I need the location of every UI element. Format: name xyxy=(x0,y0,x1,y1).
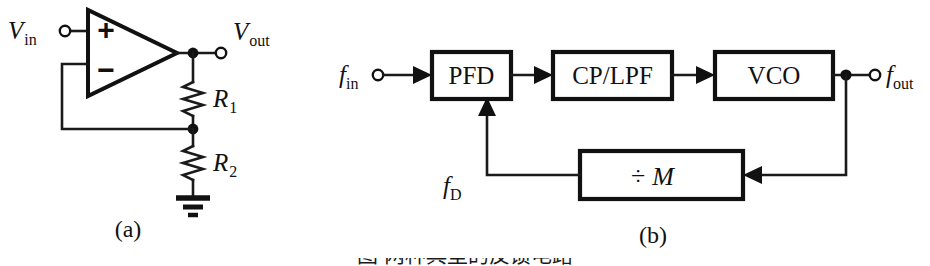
block-divider-label: ÷M xyxy=(631,162,675,191)
fout-terminal-icon xyxy=(870,70,880,80)
panel-b-group: PFD CP/LPF VCO ÷M xyxy=(339,52,914,248)
figure-container: + − xyxy=(0,0,930,266)
label-fin: fin xyxy=(339,61,358,92)
ground-symbol xyxy=(176,198,210,215)
arrowhead-cplpf-vco xyxy=(696,66,715,84)
panel-a-group: + − xyxy=(8,10,270,242)
arrowhead-vco-divider xyxy=(743,166,762,184)
input-terminal-icon xyxy=(60,26,70,36)
arrowhead-pfd-cplpf xyxy=(534,66,553,84)
label-vout: Vout xyxy=(233,18,270,49)
figure-caption-clipped: 图 两种典型的反馈电路 xyxy=(0,258,930,266)
panel-label-b: (b) xyxy=(639,222,667,248)
resistor-r1-symbol xyxy=(183,82,203,116)
arrowhead-fin-pfd xyxy=(413,66,432,84)
op-amp-minus-label: − xyxy=(97,53,115,86)
label-vin: Vin xyxy=(8,17,37,48)
resistor-r2-symbol xyxy=(183,146,203,180)
output-terminal-icon xyxy=(216,48,226,58)
circuit-diagram-svg: + − xyxy=(0,0,930,266)
op-amp-plus-label: + xyxy=(97,13,115,46)
label-r1: R1 xyxy=(212,85,237,116)
label-fd: fD xyxy=(443,172,462,203)
block-cp-lpf-label: CP/LPF xyxy=(572,62,653,89)
label-fout: fout xyxy=(886,61,914,92)
block-vco-label: VCO xyxy=(748,62,801,89)
label-r2: R2 xyxy=(212,149,237,180)
figure-caption-text: 图 两种典型的反馈电路 xyxy=(0,258,930,266)
fin-terminal-icon xyxy=(373,70,383,80)
block-pfd-label: PFD xyxy=(449,62,495,89)
wire-divider-to-pfd xyxy=(487,112,580,175)
panel-label-a: (a) xyxy=(115,216,142,242)
